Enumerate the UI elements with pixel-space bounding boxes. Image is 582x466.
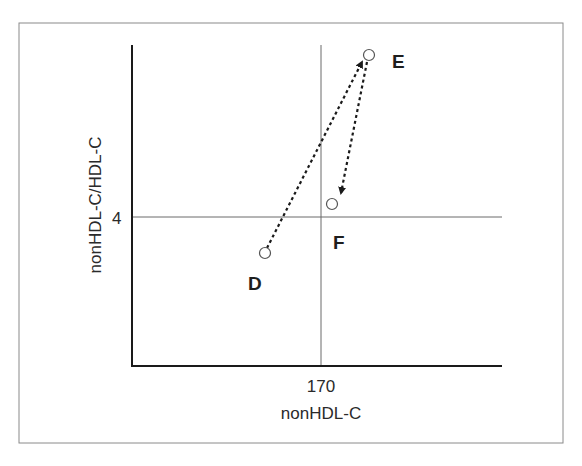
label-d: D [248,273,262,294]
y-axis-title: nonHDL-C/HDL-C [86,137,105,274]
label-e: E [392,51,405,72]
point-e [364,50,375,61]
x-tick-170: 170 [307,377,335,396]
point-f [327,199,338,210]
diagram-canvas: D E F 4 170 nonHDL-C nonHDL-C/HDL-C [0,0,582,466]
y-tick-4: 4 [112,209,121,228]
label-f: F [333,232,345,253]
point-d [260,248,271,259]
x-axis-title: nonHDL-C [281,404,361,423]
